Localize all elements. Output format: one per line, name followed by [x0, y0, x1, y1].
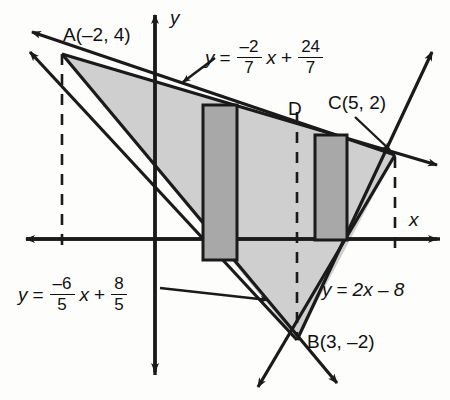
point-label-a: A(–2, 4): [63, 25, 131, 44]
left-rectangle: [203, 105, 237, 260]
equation-ac-slope-denominator: 7: [241, 58, 256, 77]
equation-line-ac: y = –2 7 x + 24 7: [205, 38, 324, 77]
equation-ac-equals: =: [219, 48, 232, 67]
equation-ab-slope-fraction: –6 5: [50, 275, 75, 314]
equation-line-bc: y = 2x – 8: [322, 280, 404, 299]
point-label-c: C(5, 2): [328, 93, 386, 112]
x-axis-label: x: [409, 210, 419, 229]
coordinate-plane-figure: A(–2, 4) B(3, –2) C(5, 2) D y x y = –2 7…: [0, 0, 450, 400]
equation-ab-constant-denominator: 5: [111, 295, 126, 314]
equation-ac-lhs: y: [205, 48, 215, 67]
equation-ab-constant-fraction: 8 5: [111, 275, 126, 314]
right-rectangle: [315, 135, 347, 240]
equation-ab-lhs: y: [18, 285, 28, 304]
equation-ab-constant-numerator: 8: [111, 275, 126, 295]
point-label-d: D: [288, 99, 302, 118]
equation-ac-slope-fraction: –2 7: [237, 38, 262, 77]
equation-ab-equals: =: [32, 285, 45, 304]
equation-ab-slope-numerator: –6: [50, 275, 75, 295]
equation-ac-constant-denominator: 7: [303, 58, 318, 77]
equation-ab-slope-denominator: 5: [54, 295, 69, 314]
equation-ab-variable: x: [80, 285, 90, 304]
equation-ac-slope-numerator: –2: [237, 38, 262, 58]
equation-line-ab: y = –6 5 x + 8 5: [18, 275, 128, 314]
point-label-b: B(3, –2): [307, 332, 375, 351]
equation-bc-equals: =: [336, 280, 349, 299]
equation-ac-variable: x: [267, 48, 277, 67]
equation-bc-rhs: 2x – 8: [353, 280, 405, 299]
equation-ab-operator: +: [93, 285, 106, 304]
equation-ac-operator: +: [280, 48, 293, 67]
equation-bc-lhs: y: [322, 280, 332, 299]
equation-ac-constant-fraction: 24 7: [298, 38, 323, 77]
y-axis-label: y: [170, 8, 180, 27]
equation-ac-constant-numerator: 24: [298, 38, 323, 58]
